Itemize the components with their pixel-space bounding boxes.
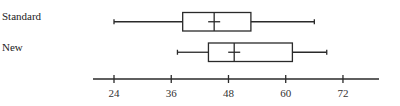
x-axis: 2436486072 bbox=[93, 75, 379, 99]
box-standard bbox=[114, 13, 314, 32]
box-plot-chart: 2436486072 bbox=[0, 0, 400, 106]
box-new bbox=[177, 43, 326, 62]
axis-tick-label: 48 bbox=[223, 87, 235, 99]
axis-tick-label: 60 bbox=[280, 87, 292, 99]
axis-tick-label: 24 bbox=[109, 87, 121, 99]
axis-tick-label: 72 bbox=[337, 87, 348, 99]
axis-tick-label: 36 bbox=[166, 87, 178, 99]
box-plots bbox=[114, 13, 327, 62]
iqr-box bbox=[208, 43, 292, 62]
